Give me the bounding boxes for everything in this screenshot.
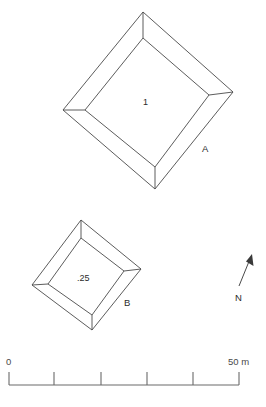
north-arrow-shaft [239,259,250,286]
mound-a-height-label: 1 [143,98,148,107]
north-arrow-head [246,254,254,266]
mound-a-label: A [202,144,208,154]
north-arrow-label: N [235,293,242,303]
site-plan-figure: 1 A .25 B N 0 50 m [0,0,266,407]
mound-b-label: B [124,298,130,308]
north-arrow-icon [239,254,254,286]
scale-bar-end-label: 50 m [228,357,249,367]
plan-drawing-canvas [0,0,266,407]
mound-b-height-label: .25 [77,274,90,283]
scale-bar [9,372,239,385]
scale-bar-start-label: 0 [6,357,11,367]
